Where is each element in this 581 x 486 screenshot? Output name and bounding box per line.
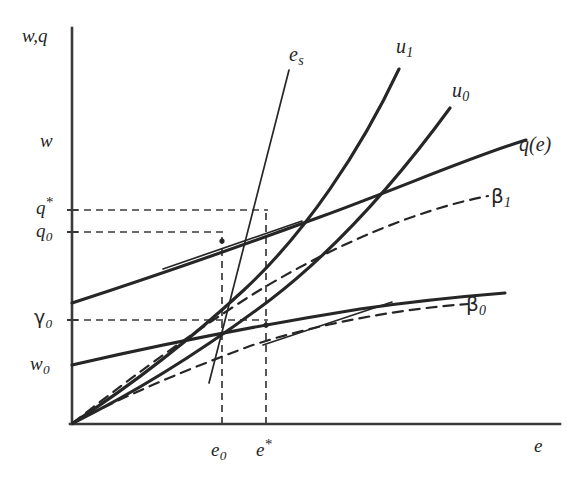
y-tick-label-w-0: w0 bbox=[30, 354, 49, 373]
y-tick-label-q-star: q* bbox=[36, 198, 53, 217]
curve-label-beta1: β1 bbox=[491, 186, 511, 206]
y-tick-label-w: w bbox=[40, 131, 53, 150]
x-tick-label-e-0: e0 bbox=[211, 440, 226, 459]
tangency-point-gamma0 bbox=[263, 322, 268, 327]
economics-diagram: w,q e w q* q0 γ0 w0 e0 e* es u1 u0 q(e) … bbox=[0, 0, 581, 486]
curve-label-u1: u1 bbox=[396, 36, 413, 56]
curve-label-q-of-e: q(e) bbox=[519, 134, 551, 154]
diagram-canvas bbox=[0, 0, 581, 486]
y-tick-label-gamma-0: γ0 bbox=[34, 308, 52, 327]
x-tick-label-e-star: e* bbox=[256, 440, 272, 459]
curve-label-beta0: β0 bbox=[466, 294, 486, 314]
solid-curves-group bbox=[72, 69, 526, 423]
curve-label-u0: u0 bbox=[452, 80, 469, 100]
thin-lines-group bbox=[163, 70, 392, 383]
x-axis-label: e bbox=[534, 436, 542, 455]
beta-0-curve bbox=[73, 304, 468, 423]
axes-group bbox=[67, 28, 560, 424]
y-axis-label: w,q bbox=[22, 26, 48, 45]
tangent-line-at-q0 bbox=[163, 221, 302, 269]
curve-label-es: es bbox=[289, 44, 303, 64]
w0-wage-curve bbox=[72, 293, 505, 365]
tangency-point-q0 bbox=[219, 238, 224, 243]
y-tick-label-q-0: q0 bbox=[36, 221, 52, 240]
u0-indifference-curve bbox=[73, 108, 450, 423]
